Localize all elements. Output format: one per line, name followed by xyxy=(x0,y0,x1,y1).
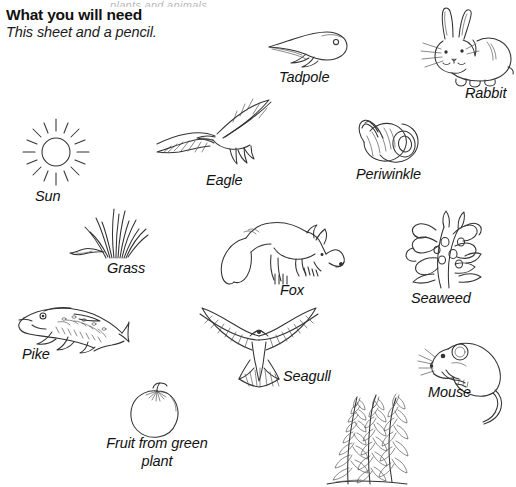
sun-label: Sun xyxy=(35,188,61,205)
page-subtitle: This sheet and a pencil. xyxy=(6,24,157,40)
seagull-label: Seagull xyxy=(283,368,331,385)
pondweed-icon xyxy=(322,388,418,487)
fruit-label: Fruit from green plant xyxy=(96,434,218,470)
grass-icon xyxy=(68,200,164,262)
rabbit-label: Rabbit xyxy=(465,85,506,102)
grass-label: Grass xyxy=(107,260,145,277)
page-title: What you will need xyxy=(6,6,142,24)
rabbit-icon xyxy=(415,5,515,85)
fox-icon xyxy=(218,212,348,286)
mouse-label: Mouse xyxy=(428,384,471,401)
tadpole-label: Tadpole xyxy=(279,69,329,86)
seaweed-icon xyxy=(393,202,499,290)
tadpole-icon xyxy=(252,24,362,70)
sun-icon xyxy=(22,118,90,186)
worksheet-page: plants and animals What you will need Th… xyxy=(0,0,516,487)
eagle-icon xyxy=(143,96,295,176)
pike-label: Pike xyxy=(22,346,50,363)
fruit-icon xyxy=(126,382,188,436)
periwinkle-label: Periwinkle xyxy=(356,166,421,183)
eagle-label: Eagle xyxy=(206,172,243,189)
fox-label: Fox xyxy=(280,282,304,299)
periwinkle-icon xyxy=(352,114,430,166)
cut-off-text-line: plants and animals xyxy=(110,0,400,7)
seaweed-label: Seaweed xyxy=(411,290,471,307)
